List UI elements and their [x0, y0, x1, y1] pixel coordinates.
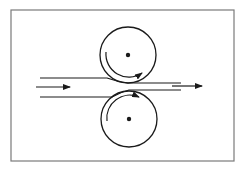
top-roller	[100, 27, 156, 83]
strip-top-edge	[40, 78, 181, 83]
rolling-mill-diagram	[0, 0, 244, 169]
top-roller-axle-icon	[126, 53, 130, 57]
bottom-roller	[101, 91, 157, 147]
bottom-roller-axle-icon	[127, 117, 131, 121]
strip-bottom-edge	[40, 90, 181, 97]
